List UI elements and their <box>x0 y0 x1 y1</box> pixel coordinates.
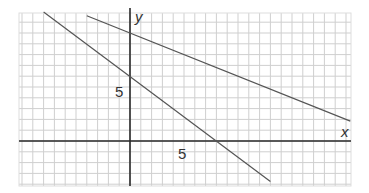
x-axis-label: x <box>340 123 349 140</box>
line-upper <box>87 16 351 121</box>
coordinate-graph: y x 5 5 <box>0 0 369 193</box>
y-tick-label-5: 5 <box>115 83 123 100</box>
line-lower <box>44 12 271 182</box>
series-group <box>44 12 351 182</box>
x-tick-label-5: 5 <box>178 145 186 162</box>
